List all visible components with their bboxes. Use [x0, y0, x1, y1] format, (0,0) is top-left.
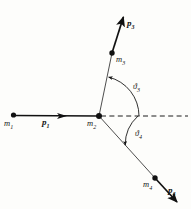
m2-dot [96, 113, 102, 119]
vector-p3 [99, 17, 123, 116]
label-p1: p1 [42, 118, 50, 127]
momentum-diagram-figure: m1 p1 m2 m3 p3 m4 p4 ϑ3 ϑ4 [0, 0, 191, 209]
p1-shaft [14, 116, 100, 117]
label-m1: m1 [4, 119, 13, 128]
p4-upper-segment [99, 116, 155, 178]
label-theta4: ϑ4 [135, 130, 142, 138]
label-m3: m3 [116, 55, 125, 64]
p3-lower-segment [99, 53, 112, 116]
m1-dot [11, 112, 16, 117]
m4-dot [152, 175, 157, 180]
label-m4: m4 [143, 180, 152, 189]
label-theta3: ϑ3 [133, 83, 140, 91]
p3-arrow-shaft [112, 17, 123, 53]
diagram-canvas [0, 0, 191, 209]
label-m2: m2 [87, 119, 96, 128]
label-p4: p4 [168, 186, 176, 195]
label-p3: p3 [127, 19, 135, 28]
m3-dot [109, 50, 114, 55]
